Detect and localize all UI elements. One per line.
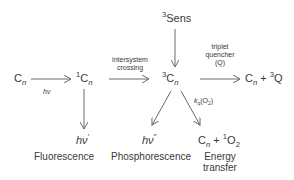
energy-transfer-caption: Energy transfer <box>199 151 241 173</box>
ground-state-cn: Cn <box>14 72 26 84</box>
energy-transfer-product: Cn + 1O2 <box>198 134 240 146</box>
kq-o2-label: kq(O2) <box>194 97 213 105</box>
quench-product: Cn + 3Q <box>245 72 283 84</box>
phosphorescence-photon: hν″ <box>142 134 156 146</box>
fluorescence-photon: hν′ <box>76 134 89 146</box>
triplet-state-cn: 3Cn <box>162 72 179 84</box>
phosphorescence-arrow <box>152 91 171 125</box>
fluorescence-caption: Fluorescence <box>34 151 94 162</box>
singlet-state-cn: 1Cn <box>76 72 93 84</box>
isc-label: intersystem crossing <box>106 56 154 72</box>
triplet-sensitizer: 3Sens <box>162 12 191 24</box>
excitation-label: hν <box>43 88 50 96</box>
phosphorescence-caption: Phosphorescence <box>111 151 191 162</box>
quencher-label: triplet quencher (Q) <box>198 43 242 67</box>
